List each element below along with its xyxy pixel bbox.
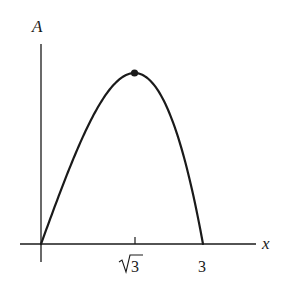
- area-curve: [41, 73, 203, 244]
- y-axis-label: A: [31, 17, 43, 36]
- chart-canvas: A x 3 3: [0, 0, 286, 289]
- x-axis-label: x: [261, 234, 270, 253]
- x-tick-label-sqrt3: 3: [119, 255, 143, 275]
- svg-text:3: 3: [131, 258, 139, 275]
- x-tick-label-3: 3: [198, 258, 206, 275]
- maximum-point-marker: [131, 69, 138, 76]
